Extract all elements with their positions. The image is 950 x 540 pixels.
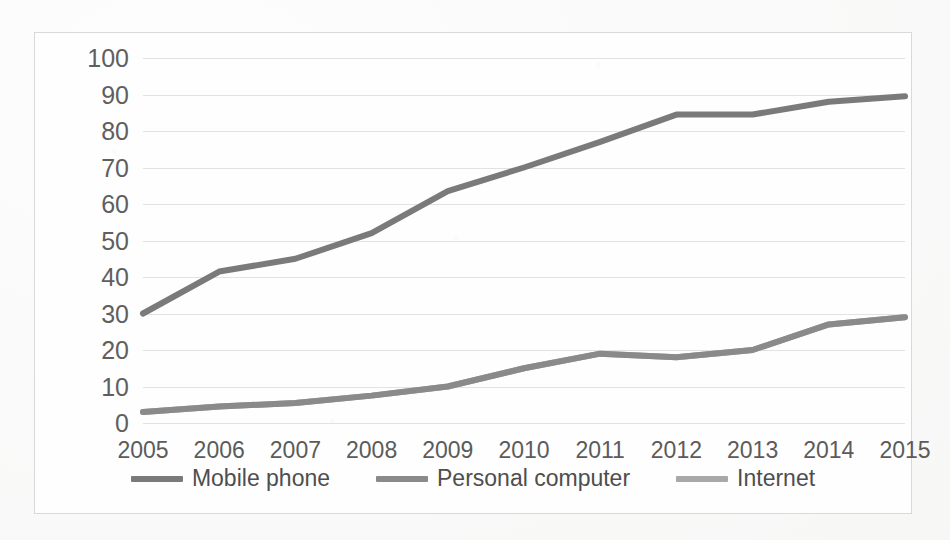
gridline (143, 423, 905, 424)
x-axis-tick-label: 2010 (498, 437, 549, 464)
y-axis-tick-label: 40 (101, 263, 129, 292)
x-axis-tick-label: 2011 (575, 437, 624, 464)
x-axis-tick-label: 2015 (879, 437, 930, 464)
y-axis-tick-label: 0 (115, 409, 129, 438)
legend-item[interactable]: Mobile phone (131, 465, 330, 492)
plot-area: 0102030405060708090100 20052006200720082… (143, 58, 905, 423)
legend-swatch-icon (676, 476, 728, 482)
x-axis-tick-label: 2013 (727, 437, 778, 464)
series-line (143, 96, 905, 313)
y-axis-tick-label: 30 (101, 299, 129, 328)
y-axis-tick-label: 80 (101, 117, 129, 146)
y-axis-tick-label: 20 (101, 336, 129, 365)
legend-item[interactable]: Personal computer (376, 465, 630, 492)
legend-item[interactable]: Internet (676, 465, 815, 492)
y-axis-tick-label: 60 (101, 190, 129, 219)
series-lines (143, 58, 905, 423)
y-axis-tick-label: 100 (87, 44, 129, 73)
legend-swatch-icon (376, 476, 428, 482)
x-axis-tick-label: 2007 (270, 437, 321, 464)
legend-label: Personal computer (437, 465, 630, 492)
chart-frame: 0102030405060708090100 20052006200720082… (34, 32, 912, 514)
chart-legend: Mobile phonePersonal computerInternet (35, 465, 911, 492)
series-line (143, 317, 905, 412)
x-axis-tick-label: 2006 (194, 437, 245, 464)
y-axis-tick-label: 70 (101, 153, 129, 182)
legend-swatch-icon (131, 476, 183, 482)
y-axis-tick-label: 10 (101, 372, 129, 401)
x-axis-tick-label: 2009 (422, 437, 473, 464)
x-axis-tick-label: 2012 (651, 437, 702, 464)
x-axis-tick-label: 2005 (117, 437, 168, 464)
y-axis-tick-label: 50 (101, 226, 129, 255)
x-axis-tick-label: 2014 (803, 437, 854, 464)
series-line (143, 317, 905, 412)
legend-label: Internet (737, 465, 815, 492)
y-axis-tick-label: 90 (101, 80, 129, 109)
legend-label: Mobile phone (192, 465, 330, 492)
x-axis-tick-label: 2008 (346, 437, 397, 464)
